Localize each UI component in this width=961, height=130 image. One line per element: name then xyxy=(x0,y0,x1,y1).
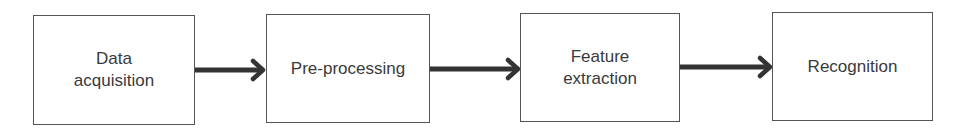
node-pre-processing: Pre-processing xyxy=(266,14,430,123)
node-label-line1: Feature xyxy=(571,47,630,66)
node-label-line1: Recognition xyxy=(808,57,898,76)
node-label-line1: Pre-processing xyxy=(291,59,405,78)
arrow-icon xyxy=(195,58,267,82)
arrow-icon xyxy=(680,55,774,79)
arrow-icon xyxy=(430,57,522,81)
node-feature-extraction: Featureextraction xyxy=(520,13,680,122)
node-label-line2: acquisition xyxy=(74,71,154,90)
node-data-acquisition: Dataacquisition xyxy=(33,15,195,125)
node-recognition: Recognition xyxy=(772,12,933,121)
node-label-line2: extraction xyxy=(563,69,637,88)
node-label-line1: Data xyxy=(96,49,132,68)
